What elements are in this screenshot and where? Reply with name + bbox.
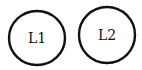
node-l2-label: L2 — [98, 27, 116, 43]
node-l1: L1 — [9, 11, 65, 65]
diagram-canvas: L1 L2 — [0, 0, 142, 70]
node-l2: L2 — [79, 7, 135, 63]
node-l1-label: L1 — [28, 30, 46, 46]
